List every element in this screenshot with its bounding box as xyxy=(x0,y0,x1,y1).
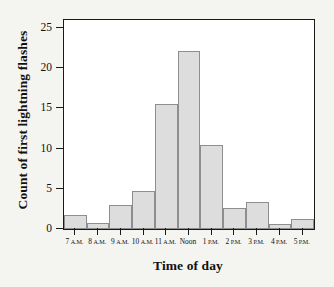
x-tick-mark xyxy=(302,228,303,235)
bar xyxy=(246,202,269,229)
bar xyxy=(178,51,201,229)
x-tick-mark xyxy=(97,228,98,235)
x-tick-mark xyxy=(211,228,212,235)
x-tick-label: 2 P.M. xyxy=(225,237,241,246)
x-tick-mark xyxy=(74,228,75,235)
y-tick-label: 20 xyxy=(8,61,52,73)
bar xyxy=(132,191,155,229)
x-tick-mark xyxy=(279,228,280,235)
x-tick-mark xyxy=(143,228,144,235)
bar xyxy=(200,145,223,229)
histogram-figure: Count of first lightning flashes 0510152… xyxy=(0,0,334,287)
bar xyxy=(109,205,132,229)
bar xyxy=(64,215,87,229)
x-tick-label: 10 A.M. xyxy=(132,237,153,246)
bar-series xyxy=(64,20,314,229)
x-tick-label: 1 P.M. xyxy=(203,237,219,246)
y-tick-mark xyxy=(56,148,63,149)
x-tick-label: 7 A.M. xyxy=(66,237,84,246)
bar xyxy=(223,208,246,229)
y-tick-mark xyxy=(56,228,63,229)
bar xyxy=(87,223,110,229)
y-tick-mark xyxy=(56,67,63,68)
x-tick-mark xyxy=(233,228,234,235)
x-axis-title: Time of day xyxy=(63,258,313,274)
y-axis-title: Count of first lightning flashes xyxy=(14,0,32,240)
y-tick-label: 25 xyxy=(8,21,52,33)
y-tick-mark xyxy=(56,27,63,28)
bar xyxy=(291,219,314,229)
x-tick-label: 3 P.M. xyxy=(248,237,264,246)
x-tick-label: 5 P.M. xyxy=(294,237,310,246)
x-tick-label: 4 P.M. xyxy=(271,237,287,246)
y-tick-label: 10 xyxy=(8,142,52,154)
x-tick-mark xyxy=(120,228,121,235)
y-tick-label: 0 xyxy=(8,222,52,234)
bar xyxy=(155,104,178,229)
x-tick-label: 8 A.M. xyxy=(88,237,106,246)
x-tick-mark xyxy=(256,228,257,235)
y-tick-label: 5 xyxy=(8,182,52,194)
y-tick-label: 15 xyxy=(8,101,52,113)
plot-area xyxy=(63,19,315,230)
x-tick-mark xyxy=(188,228,189,235)
x-tick-label: Noon xyxy=(180,237,196,246)
x-tick-label: 11 A.M. xyxy=(155,237,176,246)
x-tick-label: 9 A.M. xyxy=(111,237,129,246)
x-tick-mark xyxy=(165,228,166,235)
y-tick-mark xyxy=(56,188,63,189)
y-tick-mark xyxy=(56,107,63,108)
